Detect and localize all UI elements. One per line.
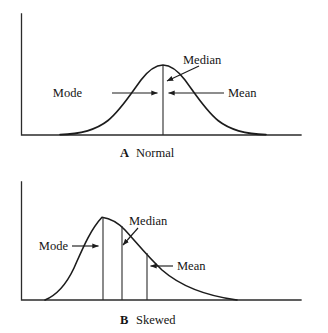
panel-b-caption-word: Skewed — [136, 313, 176, 327]
panel-b-skewed: Mode Median Mean B Skewed — [22, 182, 302, 327]
panel-b-mean-label: Mean — [177, 259, 206, 273]
panel-b-median-label: Median — [129, 214, 168, 228]
panel-a-caption-word: Normal — [136, 146, 175, 160]
panel-b-skewed-curve — [45, 217, 237, 300]
panel-a-normal: Mode Mean Median A Normal — [22, 14, 302, 160]
panel-b-caption-letter: B — [120, 313, 128, 327]
panel-a-median-label: Median — [183, 53, 222, 67]
panel-a-caption-letter: A — [120, 146, 129, 160]
panel-b-mode-label: Mode — [39, 239, 69, 253]
panel-a-axes — [22, 14, 302, 135]
panel-a-mean-label: Mean — [228, 86, 257, 100]
panel-a-mode-label: Mode — [53, 86, 83, 100]
statistics-distribution-figure: Mode Mean Median A Normal Mode Median — [0, 0, 328, 333]
figure-root: Mode Mean Median A Normal Mode Median — [0, 0, 328, 333]
